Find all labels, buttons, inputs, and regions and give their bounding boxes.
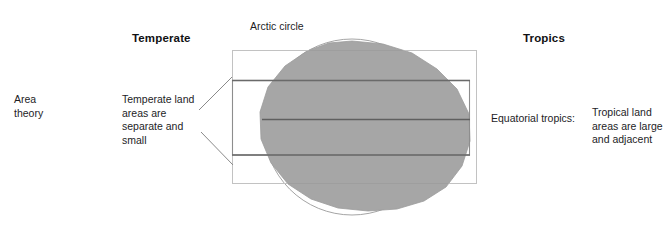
globe-fill-polygon bbox=[260, 41, 470, 211]
upper-connector-line bbox=[199, 77, 232, 110]
temperate-description-text: Temperate land areas are separate and sm… bbox=[122, 93, 198, 147]
area-theory-label: Area theory bbox=[14, 93, 84, 120]
lower-connector-line bbox=[201, 132, 233, 165]
area-theory-figure: Area theory Temperate Tropics Arctic cir… bbox=[0, 0, 667, 228]
temperate-heading: Temperate bbox=[132, 31, 191, 45]
tropical-description-text: Tropical land areas are large and adjace… bbox=[592, 106, 664, 147]
tropics-heading: Tropics bbox=[523, 31, 565, 45]
arctic-circle-label: Arctic circle bbox=[250, 20, 304, 34]
equatorial-tropics-label: Equatorial tropics: bbox=[491, 112, 575, 126]
